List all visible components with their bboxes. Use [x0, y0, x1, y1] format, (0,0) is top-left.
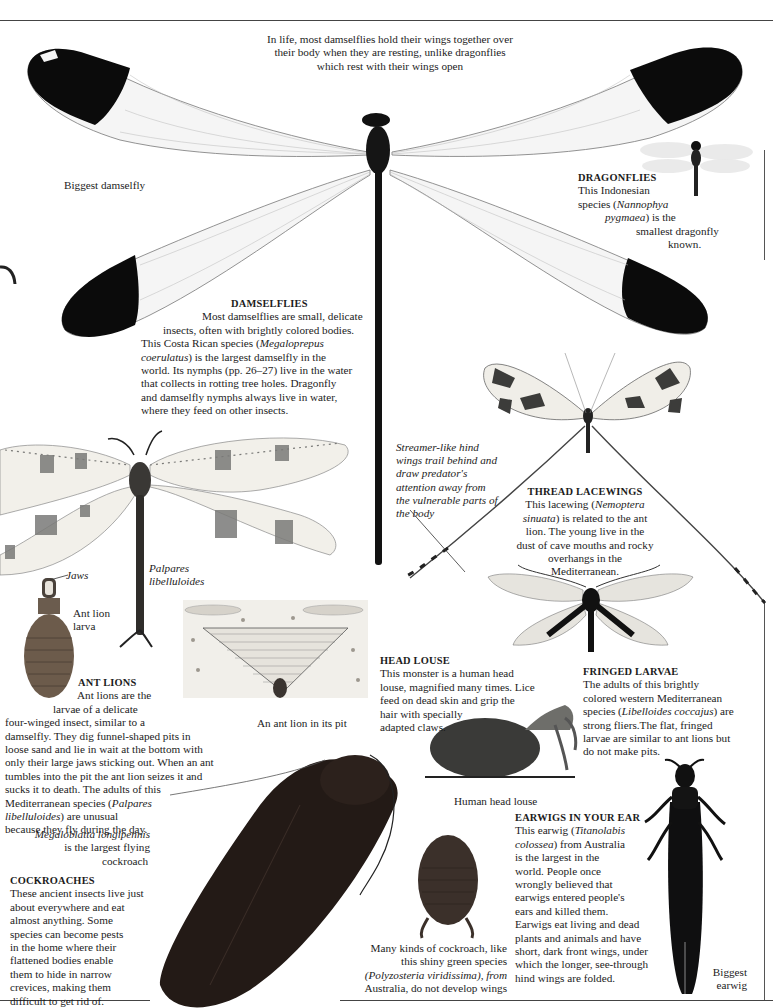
right-margin-rule-lower [764, 600, 765, 1000]
partial-insect-leg [0, 262, 20, 292]
jaws-pointer-line [50, 574, 70, 582]
label-ant-lion-larva: Ant lion larva [73, 607, 110, 634]
text-line: that collects in rotting tree holes. Dra… [141, 377, 375, 390]
text-line: pygmaea) is the [578, 211, 768, 224]
text-line: Megaloblatta longipennis [20, 828, 150, 841]
text-line: plants and animals and have [515, 932, 695, 945]
label-palpares: Palpares libelluloides [149, 562, 204, 589]
text-line: species (Nannophya [578, 198, 768, 211]
text-line: strong fliers.The flat, fringed [583, 719, 768, 732]
text-line: feed on dead skin and grip the [380, 694, 580, 707]
section-damselflies: DAMSELFLIES Most damselflies are small, … [150, 297, 375, 418]
text-line: Most damselflies are small, delicate [150, 310, 375, 323]
text-line: world. Its nymphs (pp. 26–27) live in th… [141, 364, 375, 377]
text-line: where they feed on other insects. [141, 404, 375, 417]
text-line: colored western Mediterranean [583, 692, 768, 705]
label-polyzosteria: Many kinds of cockroach, like this shiny… [340, 942, 507, 996]
text-line: larvae of a delicate [5, 703, 325, 716]
streamer-pointer-line [410, 510, 470, 580]
section-heading: DRAGONFLIES [578, 171, 768, 184]
text-line: This earwig (Titanolabis [515, 824, 695, 837]
text-line: crevices, making them [10, 981, 170, 994]
text-line: Streamer-like hind [396, 441, 536, 454]
text-line: earwig [700, 979, 747, 992]
label-human-head-louse: Human head louse [454, 795, 537, 808]
text-line: species (Libelloides coccajus) are [583, 705, 768, 718]
text-line: Mediterranean species (Palpares [5, 797, 325, 810]
text-line: overhangs in the [505, 552, 665, 565]
section-cockroaches: COCKROACHES These ancient insects live j… [10, 874, 170, 1008]
text-line: Palpares [149, 562, 204, 575]
text-line: libelluloides) are unusual [5, 810, 325, 823]
text-line: This lacewing (Nemoptera [505, 498, 665, 511]
section-heading: EARWIGS IN YOUR EAR [515, 811, 695, 824]
text-line: dust of cave mouths and rocky [505, 539, 665, 552]
text-line: larva [73, 620, 110, 633]
polyzosteria-cockroach-illustration [410, 828, 490, 938]
section-earwigs: EARWIGS IN YOUR EAR This earwig (Titanol… [515, 811, 695, 985]
section-heading: ANT LIONS [5, 676, 325, 689]
text-line: damselfly. They dig funnel-shaped pits i… [5, 730, 325, 743]
section-head-louse: HEAD LOUSE This monster is a human head … [380, 654, 580, 734]
text-line: species can become pests [10, 928, 170, 941]
text-line: and damselfly nymphs always live in wate… [141, 391, 375, 404]
section-heading: FRINGED LARVAE [583, 665, 768, 678]
section-dragonflies: DRAGONFLIES This Indonesian species (Nan… [578, 171, 768, 251]
text-line: known. [578, 238, 768, 251]
section-thread-lacewings: THREAD LACEWINGS This lacewing (Nemopter… [505, 485, 665, 579]
text-line: hair with specially [380, 708, 580, 721]
label-biggest-damselfly: Biggest damselfly [64, 179, 145, 192]
text-line: This monster is a human head [380, 667, 580, 680]
text-line: short, dark front wings, under [515, 945, 695, 958]
text-line: louse, magnified many times. Lice [380, 681, 580, 694]
text-line: sucks it to death. The adults of this [5, 783, 325, 796]
text-line: do not make pits. [583, 745, 768, 758]
text-line: in the home where their [10, 941, 170, 954]
text-line: Ant lion [73, 607, 110, 620]
text-line: coerulatus) is the largest damselfly in … [141, 351, 375, 364]
text-line: earwigs entered people's [515, 891, 695, 904]
text-line: Many kinds of cockroach, like [340, 942, 507, 955]
text-line: hind wings are folded. [515, 972, 695, 985]
text-line: Mediterranean. [505, 565, 665, 578]
text-line: lion. The young live in the [505, 525, 665, 538]
text-line: colossea) from Australia [515, 838, 695, 851]
label-biggest-earwig: Biggest earwig [700, 966, 747, 993]
text-line: wings trail behind and [396, 454, 536, 467]
text-line: Earwigs eat living and dead [515, 918, 695, 931]
section-fringed-larvae: FRINGED LARVAE The adults of this bright… [583, 665, 768, 759]
text-line: world. People once [515, 865, 695, 878]
text-line: which the longer, see-through [515, 958, 695, 971]
text-line: Biggest [700, 966, 747, 979]
text-line: This Indonesian [578, 184, 768, 197]
text-line: These ancient insects live just [10, 887, 170, 900]
text-line: cockroach [20, 855, 150, 868]
text-line: libelluloides [149, 575, 204, 588]
text-line: flattened bodies enable [10, 954, 170, 967]
section-ant-lions: ANT LIONS Ant lions are the larvae of a … [5, 676, 325, 837]
text-line: this shiny green species [340, 955, 507, 968]
text-line: tumbles into the pit the ant lion seizes… [5, 770, 325, 783]
text-line: is the largest in the [515, 851, 695, 864]
text-line: adapted claws. [380, 721, 580, 734]
text-line: only their large jaws sticking out. When… [5, 756, 325, 769]
top-caption: In life, most damselflies hold their win… [235, 33, 545, 73]
text-line: draw predator's [396, 467, 536, 480]
text-line: (Polyzosteria viridissima), from [340, 969, 507, 982]
text-line: sinuata) is related to the ant [505, 512, 665, 525]
text-line: wrongly believed that [515, 878, 695, 891]
caption-line: which rest with their wings open [235, 60, 545, 73]
section-heading: COCKROACHES [10, 874, 170, 887]
caption-line: In life, most damselflies hold their win… [235, 33, 545, 46]
text-line: insects, often with brightly colored bod… [150, 324, 375, 337]
text-line: them to hide in narrow [10, 968, 170, 981]
label-megaloblatta: Megaloblatta longipennis is the largest … [20, 828, 150, 868]
text-line: This Costa Rican species (Megaloprepus [141, 337, 375, 350]
section-heading: THREAD LACEWINGS [505, 485, 665, 498]
text-line: loose sand and lie in wait at the bottom… [5, 743, 325, 756]
text-line: The adults of this brightly [583, 678, 768, 691]
text-line: about everywhere and eat [10, 901, 170, 914]
section-heading: DAMSELFLIES [150, 297, 375, 310]
text-line: is the largest flying [20, 841, 150, 854]
text-line: difficult to get rid of. [10, 995, 170, 1008]
